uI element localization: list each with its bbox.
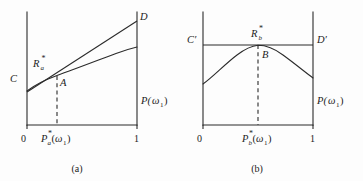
- panel-b-label-r-base: R: [250, 28, 258, 39]
- panel-a-axisname-close: ): [164, 95, 168, 107]
- panel-b-label-c-prime: C′: [187, 34, 197, 45]
- panel-b-label-r-star-b: R * b: [250, 24, 263, 42]
- panel-b-marked-paren-close: ): [268, 133, 272, 145]
- panel-a-x-axis-name: P( ω 1 ): [140, 95, 168, 109]
- panel-a-label-d: D: [139, 11, 148, 22]
- panel-a: C D A R * a 0 1 P * a ( ω 1 ) P( ω 1 ): [0, 0, 181, 181]
- panel-b-marked-arg: ω: [256, 133, 263, 144]
- panel-b-label-d-prime: D′: [316, 34, 328, 45]
- panel-b-xtick-label-0: 0: [197, 133, 202, 144]
- panel-b: C′ D′ B R * b 0 1 P * b ( ω 1 ) P( ω 1: [181, 0, 363, 181]
- panel-b-x-axis-name: P( ω 1 ): [316, 95, 344, 109]
- panel-a-label-r-base: R: [32, 58, 40, 69]
- panel-a-marked-arg: ω: [55, 133, 62, 144]
- panel-a-marked-paren-close: ): [67, 133, 71, 145]
- panel-a-caption: (a): [71, 163, 82, 175]
- panel-a-xtick-label-1: 1: [134, 133, 139, 144]
- panel-a-label-r-sub: a: [41, 64, 45, 72]
- panel-a-marked-point-label: P * a ( ω 1 ): [40, 129, 71, 147]
- panel-b-axisname-close: ): [340, 95, 344, 107]
- panel-b-axisname-base: P(: [316, 95, 328, 107]
- panel-b-label-r-star: *: [259, 24, 263, 33]
- panel-b-concave-curve: [203, 45, 313, 84]
- panel-b-label-r-sub: b: [259, 34, 263, 42]
- panel-b-xtick-label-1: 1: [310, 133, 315, 144]
- panel-a-label-c: C: [10, 73, 18, 84]
- panel-b-marked-point-label: P * b ( ω 1 ): [241, 129, 272, 147]
- panel-a-xtick-label-0: 0: [21, 133, 26, 144]
- panel-b-label-b: B: [262, 49, 269, 60]
- panel-a-axisname-omega: ω: [152, 95, 159, 106]
- panel-a-label-r-star-a: R * a: [32, 54, 46, 72]
- panel-a-label-r-star: *: [42, 54, 46, 63]
- panel-b-axisname-omega: ω: [328, 95, 335, 106]
- figure-container: C D A R * a 0 1 P * a ( ω 1 ) P( ω 1 ): [0, 0, 363, 181]
- panel-a-label-a: A: [59, 77, 67, 88]
- panel-b-caption: (b): [251, 163, 263, 175]
- panel-a-axisname-base: P(: [140, 95, 152, 107]
